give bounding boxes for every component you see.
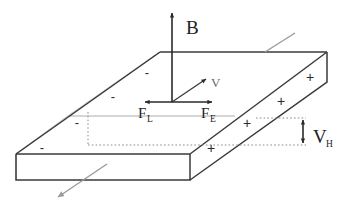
negative-sign: - <box>111 89 115 104</box>
velocity-label: V <box>211 75 221 90</box>
positive-sign: + <box>243 115 251 131</box>
positive-sign: + <box>207 140 215 156</box>
hall-effect-canvas: - - - - + + + + B V <box>0 0 348 212</box>
positive-sign: + <box>277 93 285 109</box>
electric-force-subscript: E <box>210 114 216 124</box>
electric-force-label: F <box>201 105 209 121</box>
hall-voltage-label: V <box>313 126 327 147</box>
magnetic-field-label: B <box>186 17 199 38</box>
hall-voltage-subscript: H <box>326 139 333 149</box>
lorentz-force-subscript: L <box>147 114 153 124</box>
negative-sign: - <box>75 115 79 130</box>
hall-effect-diagram: - - - - + + + + B V <box>0 0 348 212</box>
lorentz-force-label: F <box>138 105 146 121</box>
negative-sign: - <box>40 140 44 155</box>
current-arrow-top <box>265 33 295 52</box>
negative-sign: - <box>145 65 149 80</box>
hall-voltage-group: V H <box>303 120 333 149</box>
positive-sign: + <box>306 69 314 85</box>
